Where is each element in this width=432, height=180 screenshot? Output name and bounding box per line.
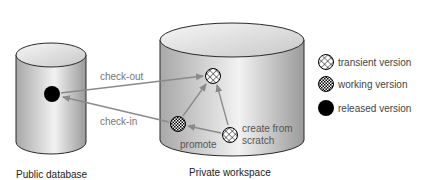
legend-transient-label: transient version: [338, 57, 411, 68]
private-workspace-caption: Private workspace: [189, 167, 271, 178]
transient-version-node: [206, 69, 221, 84]
public-cylinder-body: [16, 55, 86, 154]
legend: transient version working version releas…: [318, 55, 411, 117]
scratch-label: scratch: [242, 135, 274, 146]
promote-label: promote: [180, 139, 217, 150]
transient-scratch-node: [223, 128, 238, 143]
legend-working-icon: [319, 77, 334, 92]
legend-working-label: working version: [337, 79, 407, 90]
public-database-caption: Public database: [16, 169, 88, 180]
legend-released-label: released version: [338, 103, 411, 114]
private-cylinder-top: [160, 23, 304, 57]
public-cylinder-top: [16, 43, 86, 67]
create-from-label: create from: [242, 123, 293, 134]
check-out-label: check-out: [100, 71, 144, 82]
working-version-node: [171, 117, 186, 132]
check-in-label: check-in: [100, 116, 137, 127]
diagram-canvas: check-out check-in promote create from s…: [0, 0, 432, 180]
legend-transient-icon: [319, 55, 334, 70]
released-version-node: [44, 86, 60, 102]
legend-released-icon: [318, 100, 334, 116]
